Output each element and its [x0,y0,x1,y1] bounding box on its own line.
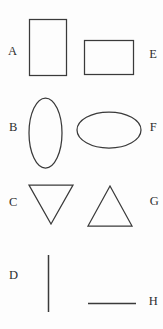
shape-figure: A E B F C G D H [0,0,163,329]
shape-label-f: F [0,121,157,134]
shape-label-e: E [0,48,157,61]
shape-label-d: D [9,269,18,282]
shape-label-g: G [0,195,159,208]
shape-label-h: H [0,295,158,308]
